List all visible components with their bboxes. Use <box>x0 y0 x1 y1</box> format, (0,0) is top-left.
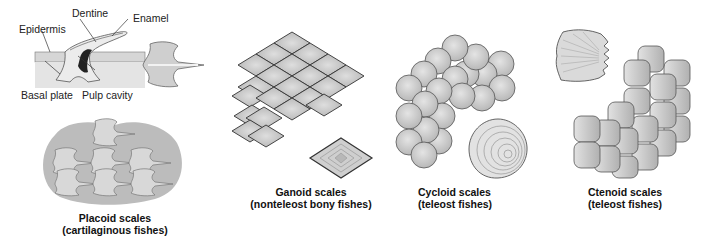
placoid-caption: Placoid scales (cartilaginous fishes) <box>30 212 200 236</box>
placoid-skin-patch <box>35 113 185 208</box>
label-epidermis: Epidermis <box>19 24 66 35</box>
label-dentine: Dentine <box>72 8 108 19</box>
ctenoid-caption: Ctenoid scales (teleost fishes) <box>588 186 662 210</box>
ctenoid-caption-title: Ctenoid scales <box>588 186 662 198</box>
ganoid-caption-subtitle: (nonteleost bony fishes) <box>226 198 396 210</box>
ctenoid-caption-subtitle: (teleost fishes) <box>588 198 662 210</box>
label-pulp-cavity: Pulp cavity <box>82 90 133 101</box>
label-basal-plate: Basal plate <box>21 90 73 101</box>
label-enamel: Enamel <box>133 13 169 24</box>
cycloid-caption-subtitle: (teleost fishes) <box>418 198 492 210</box>
cycloid-caption-title: Cycloid scales <box>418 186 492 198</box>
ctenoid-scale-array <box>572 40 702 180</box>
placoid-caption-subtitle: (cartilaginous fishes) <box>30 224 200 236</box>
cycloid-caption: Cycloid scales (teleost fishes) <box>418 186 492 210</box>
ganoid-caption-title: Ganoid scales <box>226 186 396 198</box>
placoid-caption-title: Placoid scales <box>30 212 200 224</box>
ganoid-caption: Ganoid scales (nonteleost bony fishes) <box>226 186 396 210</box>
ganoid-single-scale <box>306 136 376 180</box>
placoid-leader-lines <box>0 0 140 80</box>
placoid-single-scale <box>138 40 208 90</box>
cycloid-single-scale <box>466 117 530 181</box>
